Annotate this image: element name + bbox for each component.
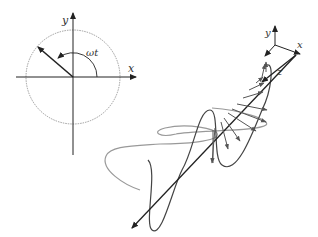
angle-label: ωt <box>86 47 99 58</box>
axis3d-x-label: x <box>297 39 303 50</box>
circular-polarization-diagram: y x ωt y x z <box>0 0 318 237</box>
coordinate-axes-3d: y x z <box>264 26 303 77</box>
vertical-field-wave <box>148 65 271 231</box>
phasor-x-label: x <box>128 62 135 75</box>
propagation-axis-tail <box>262 55 296 82</box>
phasor-diagram: y x ωt <box>16 13 136 155</box>
horizontal-field-wave <box>105 108 267 190</box>
axis3d-z <box>265 45 275 56</box>
circularly-polarized-wave <box>105 55 296 231</box>
axis3d-y-label: y <box>264 27 271 38</box>
phasor-y-label: y <box>61 14 69 27</box>
phasor-vector <box>38 47 73 77</box>
